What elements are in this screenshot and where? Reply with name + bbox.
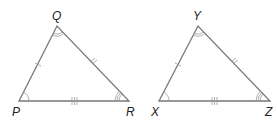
vertex-label-z: Z bbox=[264, 105, 273, 119]
vertex-label-x: X bbox=[150, 105, 160, 119]
vertex-label-q: Q bbox=[52, 9, 61, 23]
angle-x-arc bbox=[164, 92, 170, 101]
vertex-label-p: P bbox=[12, 105, 20, 119]
vertex-label-y: Y bbox=[193, 9, 202, 23]
vertex-label-r: R bbox=[126, 105, 135, 119]
side-qr-tick-marks bbox=[90, 58, 97, 64]
triangle-xyz: Y X Z bbox=[150, 9, 273, 119]
side-yz-tick-marks bbox=[231, 58, 238, 64]
angle-p-arc bbox=[24, 92, 30, 101]
congruent-triangles-diagram: Q P R Y X Z bbox=[0, 0, 277, 120]
triangle-pqr: Q P R bbox=[12, 9, 135, 119]
